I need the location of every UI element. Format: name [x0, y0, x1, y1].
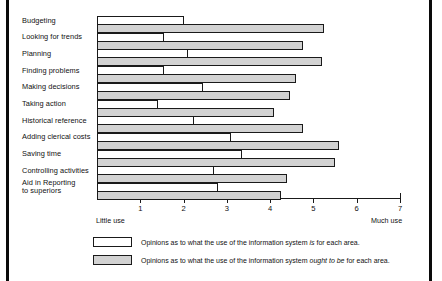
bar-is — [97, 116, 194, 125]
axis-min-label: Little use — [96, 216, 125, 225]
bar-is — [97, 166, 214, 175]
bar-is — [97, 133, 231, 142]
bar-row — [97, 100, 400, 118]
bar-ought-to-be — [97, 91, 290, 100]
axis-tick-label: 3 — [220, 204, 234, 213]
axis-tick — [313, 198, 314, 203]
axis-tick-label: 5 — [306, 204, 320, 213]
legend-label-ought: Opinions as to what the use of the infor… — [141, 256, 390, 265]
axis-tick-label: 2 — [177, 204, 191, 213]
bar-row — [97, 116, 400, 134]
category-label: Saving time — [22, 150, 94, 158]
bar-row — [97, 150, 400, 168]
bar-ought-to-be — [97, 74, 296, 83]
bar-is — [97, 16, 184, 25]
bar-is — [97, 83, 203, 92]
axis-tick-label: 1 — [133, 204, 147, 213]
bar-is — [97, 66, 164, 75]
bar-ought-to-be — [97, 191, 281, 200]
category-label: Historical reference — [22, 117, 94, 125]
page-rule-right — [429, 0, 432, 281]
bar-ought-to-be — [97, 57, 322, 66]
bar-ought-to-be — [97, 141, 339, 150]
bar-is — [97, 183, 218, 192]
category-label: Making decisions — [22, 83, 94, 91]
figure-chart: Little use Much use Opinions as to what … — [0, 0, 442, 281]
axis-tick-label: 7 — [393, 204, 407, 213]
bar-row — [97, 33, 400, 51]
axis-tick — [400, 198, 401, 203]
plot-area — [97, 12, 400, 198]
legend-ought-prefix: Opinions as to what the use of the infor… — [141, 257, 309, 264]
bar-ought-to-be — [97, 174, 287, 183]
category-label: Adding clerical costs — [22, 133, 94, 141]
legend-item-is: Opinions as to what the use of the infor… — [93, 236, 423, 250]
category-label: Controlling activities — [22, 167, 94, 175]
legend-is-prefix: Opinions as to what the use of the infor… — [141, 239, 309, 246]
legend: Opinions as to what the use of the infor… — [93, 236, 423, 272]
page-rule-left — [6, 0, 9, 281]
category-label: Aid in Reportingto superiors — [22, 179, 94, 196]
bar-ought-to-be — [97, 41, 303, 50]
category-label: Budgeting — [22, 17, 94, 25]
axis-max-label: Much use — [371, 216, 402, 225]
axis-tick — [357, 198, 358, 203]
bar-ought-to-be — [97, 124, 303, 133]
bar-ought-to-be — [97, 158, 335, 167]
bar-row — [97, 166, 400, 184]
legend-is-suffix: for each area. — [315, 239, 360, 246]
legend-item-ought: Opinions as to what the use of the infor… — [93, 254, 423, 268]
bar-row — [97, 66, 400, 84]
legend-ought-suffix: for each area. — [345, 257, 390, 264]
bar-ought-to-be — [97, 108, 274, 117]
bar-is — [97, 150, 242, 159]
legend-swatch-ought — [93, 255, 132, 265]
bar-is — [97, 33, 164, 42]
category-label: Looking for trends — [22, 33, 94, 41]
bar-ought-to-be — [97, 24, 324, 33]
bar-row — [97, 16, 400, 34]
category-label: Finding problems — [22, 67, 94, 75]
legend-label-is: Opinions as to what the use of the infor… — [141, 238, 360, 247]
bar-row — [97, 49, 400, 67]
category-label: Planning — [22, 50, 94, 58]
bar-row — [97, 133, 400, 151]
legend-ought-emphasis: ought to be — [309, 257, 344, 264]
axis-tick-label: 6 — [350, 204, 364, 213]
bar-is — [97, 100, 158, 109]
legend-swatch-is — [93, 237, 132, 247]
bar-row — [97, 83, 400, 101]
category-label: Taking action — [22, 100, 94, 108]
bar-is — [97, 49, 188, 58]
axis-tick-label: 4 — [263, 204, 277, 213]
